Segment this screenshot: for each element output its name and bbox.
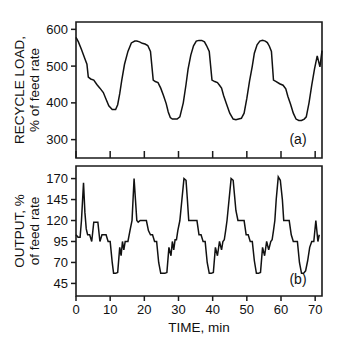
y-tick-label: 145: [46, 192, 68, 207]
panel-b-output: 457095120145170010203040506070OUTPUT, %o…: [12, 166, 322, 335]
x-tick-label: 60: [274, 302, 288, 317]
panel-a-recycle-load: 300400500600RECYCLE LOAD,% of feed rate(…: [12, 22, 322, 158]
panel-a-label: (a): [289, 131, 306, 147]
x-tick-label: 50: [240, 302, 254, 317]
x-tick-label: 20: [137, 302, 151, 317]
output-data-line: [76, 177, 319, 273]
panel-a-y-axis-title: RECYCLE LOAD,% of feed rate: [12, 36, 42, 144]
y-tick-label: 45: [54, 276, 68, 291]
y-tick-label: 300: [46, 132, 68, 147]
x-tick-label: 10: [103, 302, 117, 317]
recycle-load-data-line: [76, 37, 322, 120]
two-panel-line-chart: 300400500600RECYCLE LOAD,% of feed rate(…: [0, 0, 353, 340]
y-tick-label: 70: [54, 255, 68, 270]
x-axis-title: TIME, min: [168, 320, 230, 335]
panel-b-y-axis-title: OUTPUT, %of feed rate: [12, 194, 42, 268]
x-tick-label: 30: [171, 302, 185, 317]
y-tick-label: 170: [46, 171, 68, 186]
panel-a-axes-frame: [76, 22, 322, 158]
y-tick-label: 95: [54, 234, 68, 249]
x-tick-label: 40: [205, 302, 219, 317]
y-tick-label: 500: [46, 59, 68, 74]
panel-b-label: (b): [289, 271, 306, 287]
y-tick-label: 600: [46, 22, 68, 37]
figure-container: 300400500600RECYCLE LOAD,% of feed rate(…: [0, 0, 353, 340]
x-tick-label: 0: [72, 302, 79, 317]
y-tick-label: 120: [46, 213, 68, 228]
y-tick-label: 400: [46, 95, 68, 110]
x-tick-label: 70: [308, 302, 322, 317]
